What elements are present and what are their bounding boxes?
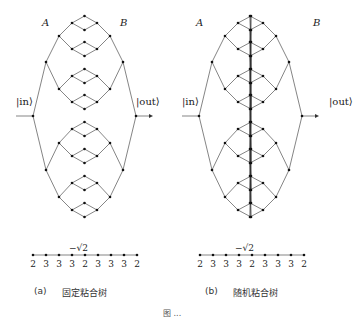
panel-b-caption-text: 随机粘合树 [233,286,278,299]
panel-b-caption-tag: (b) [205,286,218,296]
figure-caption: 图 ... [163,307,181,317]
panel-a-label-out: |out⟩ [136,96,160,107]
panel-b-label-B: B [313,17,320,28]
glued-trees-diagram [0,0,360,317]
panel-a-chain-weight: −√2 [69,243,88,253]
chain-node-value: 3 [260,259,270,269]
panel-b-chain-weight: −√2 [235,243,254,253]
panel-b-label-out: |out⟩ [329,96,353,107]
chain-node-value: 3 [286,259,296,269]
panel-a-label-B: B [120,17,127,28]
chain-node-value: 2 [299,259,309,269]
chain-node-value: 3 [106,259,116,269]
chain-node-value: 3 [119,259,129,269]
chain-node-value: 3 [41,259,51,269]
chain-node-value: 2 [195,259,205,269]
chain-node-value: 2 [28,259,38,269]
chain-node-value: 3 [221,259,231,269]
chain-node-value: 3 [273,259,283,269]
chain-node-value: 3 [208,259,218,269]
panel-a-label-in: |in⟩ [16,96,33,107]
panel-a-caption-text: 固定粘合树 [62,286,107,299]
chain-node-value: 2 [80,259,90,269]
panel-b-label-A: A [196,17,203,28]
chain-node-value: 2 [247,259,257,269]
panel-a-label-A: A [42,17,49,28]
chain-node-value: 2 [132,259,142,269]
chain-node-value: 3 [93,259,103,269]
chain-node-value: 3 [54,259,64,269]
chain-node-value: 3 [234,259,244,269]
chain-node-value: 3 [67,259,77,269]
panel-a-caption-tag: (a) [34,286,47,296]
panel-b-label-in: |in⟩ [182,96,199,107]
